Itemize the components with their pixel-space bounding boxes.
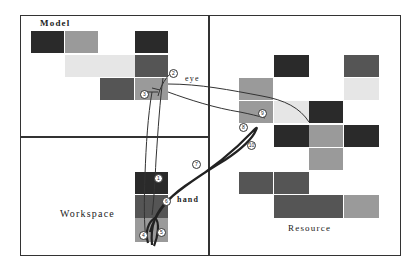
sequence-marker: 5 (157, 228, 166, 237)
workspace-label: Workspace (60, 208, 115, 219)
model-label: Model (40, 18, 71, 28)
hand-label: hand (177, 195, 199, 204)
sequence-marker: 10 (247, 141, 256, 150)
resource-label: Resource (288, 223, 331, 233)
sequence-marker: 2 (169, 69, 178, 78)
sequence-marker: 1 (154, 174, 163, 183)
diagram-canvas: 12345678910 Model Workspace Resource eye… (0, 0, 420, 269)
sequence-marker: 7 (192, 160, 201, 169)
sequence-marker: 8 (239, 123, 248, 132)
eye-label: eye (185, 74, 200, 83)
sequence-marker: 3 (140, 90, 149, 99)
trajectory-paths (0, 0, 420, 269)
sequence-marker: 6 (162, 197, 171, 206)
sequence-marker: 9 (258, 109, 267, 118)
sequence-marker: 4 (139, 231, 148, 240)
